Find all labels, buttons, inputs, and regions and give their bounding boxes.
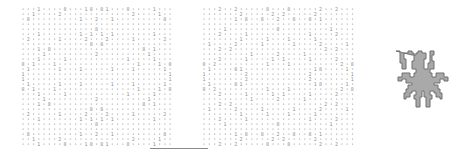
svg-text:1: 1	[266, 111, 269, 117]
svg-text:8: 8	[126, 6, 129, 12]
svg-text:1: 1	[100, 116, 103, 122]
svg-text:2: 2	[58, 11, 61, 17]
svg-text:2: 2	[95, 131, 98, 137]
svg-text:1: 1	[208, 81, 211, 87]
spider-icon	[378, 47, 458, 122]
svg-text:2: 2	[218, 91, 221, 97]
svg-text:1: 1	[105, 141, 108, 147]
svg-text:8: 8	[234, 81, 237, 87]
svg-text:1: 1	[314, 66, 317, 72]
svg-text:1: 1	[287, 111, 290, 117]
svg-text:1: 1	[58, 66, 61, 72]
svg-text:1: 1	[132, 36, 135, 42]
svg-text:1: 1	[158, 86, 161, 92]
svg-text:1: 1	[158, 11, 161, 17]
svg-text:1: 1	[111, 81, 114, 87]
svg-text:1: 1	[32, 11, 35, 17]
svg-text:1: 1	[346, 41, 349, 47]
svg-text:2: 2	[163, 111, 166, 117]
svg-text:2: 2	[335, 91, 338, 97]
svg-text:1: 1	[37, 101, 40, 107]
svg-text:2: 2	[277, 96, 280, 102]
svg-text:1: 1	[21, 76, 24, 82]
svg-text:1: 1	[53, 86, 56, 92]
svg-text:1: 1	[63, 56, 66, 62]
svg-text:1: 1	[79, 116, 82, 122]
svg-text:8: 8	[293, 16, 296, 22]
svg-text:8: 8	[277, 121, 280, 127]
svg-text:1: 1	[132, 81, 135, 87]
svg-text:1: 1	[314, 81, 317, 87]
svg-text:8: 8	[168, 61, 171, 67]
svg-text:8: 8	[90, 6, 93, 12]
svg-text:2: 2	[234, 41, 237, 47]
svg-text:2: 2	[335, 141, 338, 147]
svg-text:8: 8	[142, 101, 145, 107]
svg-text:2: 2	[319, 141, 322, 147]
svg-text:2: 2	[95, 51, 98, 57]
svg-text:2: 2	[58, 136, 61, 142]
svg-text:2: 2	[314, 136, 317, 142]
svg-text:8: 8	[277, 26, 280, 32]
svg-text:8: 8	[90, 41, 93, 47]
svg-text:1: 1	[79, 66, 82, 72]
svg-text:8: 8	[266, 6, 269, 12]
svg-text:1: 1	[234, 131, 237, 137]
svg-text:1: 1	[153, 101, 156, 107]
svg-text:1: 1	[53, 61, 56, 67]
svg-text:2: 2	[234, 6, 237, 12]
svg-text:1: 1	[100, 31, 103, 37]
svg-text:8: 8	[261, 16, 264, 22]
svg-text:2: 2	[271, 11, 274, 17]
svg-text:8: 8	[261, 131, 264, 137]
svg-text:1: 1	[224, 121, 227, 127]
svg-text:1: 1	[346, 106, 349, 112]
right-grid-pattern: 2288222222188288118121121111121121222212…	[201, 6, 361, 152]
svg-text:2: 2	[84, 36, 87, 42]
svg-text:1: 1	[271, 56, 274, 62]
connector-line	[150, 148, 208, 149]
svg-text:1: 1	[132, 111, 135, 117]
svg-text:1: 1	[111, 31, 114, 37]
svg-text:8: 8	[90, 106, 93, 112]
svg-text:1: 1	[351, 76, 354, 82]
svg-text:2: 2	[335, 116, 338, 122]
svg-text:8: 8	[245, 131, 248, 137]
svg-text:8: 8	[90, 141, 93, 147]
svg-text:2: 2	[218, 141, 221, 147]
svg-text:1: 1	[58, 36, 61, 42]
svg-text:1: 1	[240, 66, 243, 72]
svg-text:2: 2	[282, 136, 285, 142]
svg-text:8: 8	[95, 121, 98, 127]
svg-text:8: 8	[27, 16, 30, 22]
svg-text:8: 8	[163, 16, 166, 22]
svg-text:1: 1	[287, 36, 290, 42]
svg-text:1: 1	[27, 66, 30, 72]
svg-text:1: 1	[37, 46, 40, 52]
svg-text:1: 1	[303, 96, 306, 102]
svg-text:2: 2	[324, 101, 327, 107]
svg-text:1: 1	[163, 66, 166, 72]
svg-text:1: 1	[266, 61, 269, 67]
svg-text:2: 2	[229, 101, 232, 107]
svg-text:1: 1	[287, 61, 290, 67]
svg-text:2: 2	[105, 36, 108, 42]
svg-text:8: 8	[63, 6, 66, 12]
svg-text:8: 8	[319, 66, 322, 72]
svg-text:1: 1	[79, 81, 82, 87]
svg-text:2: 2	[95, 16, 98, 22]
svg-text:1: 1	[240, 36, 243, 42]
svg-text:1: 1	[153, 31, 156, 37]
svg-text:1: 1	[245, 56, 248, 62]
svg-text:1: 1	[245, 91, 248, 97]
svg-text:8: 8	[21, 86, 24, 92]
svg-text:1: 1	[84, 6, 87, 12]
svg-text:1: 1	[153, 116, 156, 122]
svg-text:8: 8	[63, 141, 66, 147]
svg-text:2: 2	[218, 46, 221, 52]
svg-text:1: 1	[111, 66, 114, 72]
svg-text:1: 1	[37, 91, 40, 97]
svg-text:1: 1	[245, 116, 248, 122]
svg-text:1: 1	[303, 51, 306, 57]
svg-text:2: 2	[271, 136, 274, 142]
